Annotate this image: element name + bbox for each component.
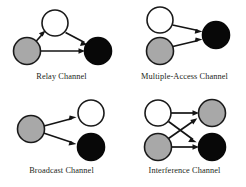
caption-interference-channel: Interference Channel [123, 166, 246, 176]
edge-source-to-destination [41, 48, 86, 53]
relay-channel-graph [0, 0, 123, 70]
node-relay-source [14, 38, 41, 65]
panel-multiple-access-channel: Multiple-Access Channel [123, 0, 246, 94]
node-mac-user-2 [147, 38, 174, 65]
edge-tx2-to-rx2 [172, 144, 200, 149]
panel-broadcast-channel: Broadcast Channel [0, 94, 123, 187]
caption-multiple-access-channel: Multiple-Access Channel [123, 72, 246, 82]
node-interference-tx-2 [145, 134, 172, 161]
multiple-access-channel-graph [123, 0, 246, 70]
edge-source-to-receiver-2 [44, 133, 77, 145]
edge-tx1-to-rx1 [171, 110, 199, 115]
panel-interference-channel: Interference Channel [123, 94, 246, 187]
node-broadcast-source [18, 116, 45, 143]
node-mac-user-1 [147, 7, 173, 33]
caption-broadcast-channel: Broadcast Channel [0, 166, 123, 176]
interference-channel-graph [123, 94, 246, 164]
edge-tx1-to-rx2 [169, 122, 197, 143]
node-broadcast-receiver-2 [78, 134, 105, 161]
edge-source-to-relay [36, 31, 46, 42]
edge-user1-to-destination [173, 25, 203, 34]
node-mac-destination [203, 22, 230, 49]
edge-relay-to-destination [66, 33, 89, 47]
broadcast-channel-graph [0, 94, 123, 164]
node-interference-rx-1 [199, 100, 226, 127]
node-interference-rx-2 [199, 134, 226, 161]
node-interference-tx-1 [145, 100, 171, 126]
node-broadcast-receiver-1 [78, 100, 104, 126]
edge-source-to-receiver-1 [44, 116, 77, 126]
panel-relay-channel: Relay Channel [0, 0, 123, 94]
edge-tx2-to-rx1 [169, 118, 198, 138]
edge-user2-to-destination [173, 38, 203, 47]
caption-relay-channel: Relay Channel [0, 72, 123, 82]
figure-canvas: Relay Channel Multiple-Access Channel [0, 0, 246, 187]
node-relay-destination [85, 38, 112, 65]
node-relay-relay [42, 10, 68, 36]
